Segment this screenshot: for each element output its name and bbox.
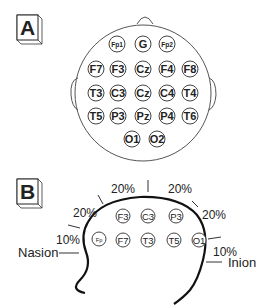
electrode-label: O1 [125, 133, 140, 145]
percent-label: 20% [202, 208, 226, 222]
electrode-label: T3 [142, 235, 153, 246]
panel-a-label-box: A [17, 15, 42, 44]
electrode-label: G [139, 38, 148, 50]
electrode-label: O1 [193, 235, 206, 246]
electrode-label: C3 [142, 211, 154, 222]
panel-a-electrodes: Fp1GFp2F7F3CzF4F8T3C3CzC4T4T5P3PzP4T6O1O… [88, 36, 198, 147]
electrode-label: Cz [136, 87, 150, 99]
electrode-label: C4 [160, 87, 175, 99]
electrode-label: Fp1 [111, 41, 123, 49]
electrode-label: F7 [117, 235, 128, 246]
panel-b-electrodes: FpF3C3P3F7T3T5O1 [92, 209, 206, 247]
electrode-label: T3 [90, 87, 103, 99]
percent-label: 20% [168, 182, 192, 196]
nasion-label: Nasion [18, 245, 58, 260]
electrode-label: T6 [184, 110, 197, 122]
electrode-label: F3 [117, 211, 128, 222]
inion-label: Inion [228, 255, 256, 270]
electrode-label: T5 [90, 110, 103, 122]
panel-b-label-box: B [17, 179, 42, 208]
electrode-label: F4 [161, 63, 175, 75]
percent-label: 10% [56, 233, 80, 247]
electrode-label: P3 [170, 211, 182, 222]
electrode-label: F7 [90, 63, 103, 75]
panel-b-label: B [20, 180, 35, 203]
electrode-label: Fp [96, 237, 103, 243]
panel-a-label: A [20, 16, 35, 39]
percent-label: 20% [73, 206, 97, 220]
eeg-10-20-diagram: A Fp1GFp2F7F3CzF4F8T3C3CzC4T4T5P3PzP4T6O… [0, 0, 269, 308]
percent-label: 20% [111, 182, 135, 196]
electrode-label: P3 [111, 110, 124, 122]
electrode-label: T5 [168, 235, 179, 246]
electrode-label: F3 [112, 63, 125, 75]
electrode-label: O2 [150, 133, 165, 145]
electrode-label: P4 [160, 110, 174, 122]
electrode-label: T4 [184, 87, 198, 99]
electrode-label: Fp2 [161, 41, 173, 49]
electrode-label: Pz [137, 110, 150, 122]
electrode-label: C3 [111, 87, 125, 99]
electrode-label: F8 [184, 63, 197, 75]
panel-b-tick-marks [59, 180, 222, 262]
electrode-label: Cz [136, 63, 150, 75]
